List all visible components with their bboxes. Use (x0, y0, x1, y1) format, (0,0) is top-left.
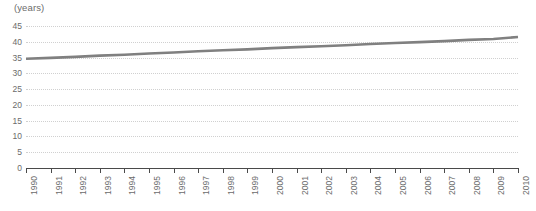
x-axis-tick-label: 1991 (55, 176, 64, 195)
y-axis-tick-label: 5 (2, 148, 22, 157)
x-axis-tick-label: 2001 (301, 176, 310, 195)
plot-area (26, 26, 518, 168)
y-axis-tick-labels: 051015202530354045 (0, 26, 22, 168)
line-chart: (years) 051015202530354045 1990199119921… (0, 0, 536, 211)
x-axis-tick (174, 168, 175, 173)
x-axis-tick-label: 1994 (128, 176, 137, 195)
y-axis-tick-label: 10 (2, 132, 22, 141)
y-axis-tick-label: 45 (2, 22, 22, 31)
x-axis-tick (247, 168, 248, 173)
y-axis-tick-label: 30 (2, 69, 22, 78)
x-axis-tick (149, 168, 150, 173)
y-axis-tick-label: 35 (2, 54, 22, 63)
x-axis-tick-label: 1990 (30, 176, 39, 195)
x-axis-tick-label: 1995 (153, 176, 162, 195)
x-axis-tick (100, 168, 101, 173)
x-axis-tick-label: 2006 (424, 176, 433, 195)
x-axis-tick (321, 168, 322, 173)
x-axis-tick-label: 2007 (448, 176, 457, 195)
x-axis-tick (75, 168, 76, 173)
series-line (26, 37, 518, 59)
x-axis-tick (297, 168, 298, 173)
x-axis-tick-label: 2008 (473, 176, 482, 195)
x-axis-tick (395, 168, 396, 173)
x-axis-tick (272, 168, 273, 173)
x-axis-tick (518, 168, 519, 173)
x-axis-tick-label: 1997 (202, 176, 211, 195)
x-axis-tick (198, 168, 199, 173)
x-axis-tick (493, 168, 494, 173)
y-axis-tick-label: 0 (2, 164, 22, 173)
x-axis-tick-label: 1992 (79, 176, 88, 195)
series-layer (26, 26, 518, 168)
x-axis-tick-label: 1999 (251, 176, 260, 195)
y-axis-tick-label: 25 (2, 85, 22, 94)
x-axis-tick (223, 168, 224, 173)
y-axis-tick-label: 15 (2, 117, 22, 126)
x-axis-tick-label: 1996 (178, 176, 187, 195)
x-axis-tick (124, 168, 125, 173)
x-axis-tick (469, 168, 470, 173)
x-axis-tick (370, 168, 371, 173)
x-axis-tick-label: 2002 (325, 176, 334, 195)
x-axis-tick (26, 168, 27, 173)
x-axis-tick-label: 1998 (227, 176, 236, 195)
x-axis-tick (444, 168, 445, 173)
x-axis-tick (51, 168, 52, 173)
x-axis-tick (346, 168, 347, 173)
x-axis-tick-label: 2005 (399, 176, 408, 195)
x-axis-tick-label: 2004 (374, 176, 383, 195)
y-axis-tick-label: 40 (2, 38, 22, 47)
x-axis-tick-label: 2003 (350, 176, 359, 195)
x-axis-tick-label: 1993 (104, 176, 113, 195)
x-axis-tick-label: 2010 (522, 176, 531, 195)
x-axis-tick-label: 2000 (276, 176, 285, 195)
x-axis-tick (420, 168, 421, 173)
x-axis-tick-label: 2009 (497, 176, 506, 195)
y-axis-tick-label: 20 (2, 101, 22, 110)
y-axis-unit-label: (years) (14, 2, 44, 13)
